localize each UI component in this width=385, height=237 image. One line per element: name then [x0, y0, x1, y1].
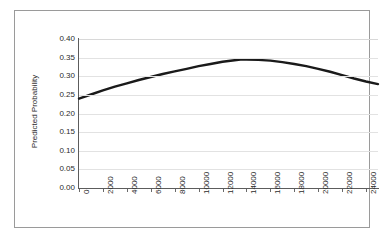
x-axis-tick-mark: [246, 189, 247, 192]
x-axis-tick-mark: [342, 189, 343, 192]
y-axis-tick-label: 0.30: [45, 72, 75, 80]
gridline-horizontal: [79, 58, 378, 59]
y-axis-tick-label: 0.35: [45, 54, 75, 62]
chart-frame: Predicted Probability 0.000.050.100.150.…: [14, 10, 370, 228]
series-line: [79, 59, 378, 98]
x-axis-tick-mark: [175, 189, 176, 192]
x-axis-tick-label: 10000: [203, 172, 211, 194]
x-axis-tick-mark: [294, 189, 295, 192]
x-axis-tick-label: 4000: [131, 176, 139, 194]
x-axis-tick-label: 14000: [250, 172, 258, 194]
gridline-horizontal: [79, 169, 378, 170]
gridline-horizontal: [79, 76, 378, 77]
gridline-horizontal: [79, 95, 378, 96]
x-axis-tick-mark: [270, 189, 271, 192]
x-axis-tick-mark: [127, 189, 128, 192]
x-axis-tick-mark: [79, 189, 80, 192]
x-axis-tick-label: 22000: [346, 172, 354, 194]
chart-figure: Predicted Probability 0.000.050.100.150.…: [0, 0, 385, 237]
y-axis-tick-label: 0.25: [45, 91, 75, 99]
gridline-horizontal: [79, 114, 378, 115]
y-axis-tick-label: 0.15: [45, 128, 75, 136]
y-axis-tick-label: 0.40: [45, 35, 75, 43]
y-axis-tick-label: 0.00: [45, 184, 75, 192]
plot-area: [79, 39, 378, 188]
gridline-horizontal: [79, 132, 378, 133]
x-axis-tick-mark: [223, 189, 224, 192]
x-axis-tick-label: 2000: [107, 176, 115, 194]
x-axis-tick-mark: [318, 189, 319, 192]
y-axis-tick-label: 0.10: [45, 147, 75, 155]
x-axis-tick-mark: [366, 189, 367, 192]
x-axis-tick-label: 6000: [155, 176, 163, 194]
y-axis-tick-labels: 0.000.050.100.150.200.250.300.350.40: [45, 35, 75, 193]
x-axis-tick-label: 18000: [298, 172, 306, 194]
x-axis-tick-label: 24000: [370, 172, 378, 194]
x-axis-tick-label: 8000: [179, 176, 187, 194]
y-axis-title: Predicted Probability: [30, 52, 39, 172]
x-axis-tick-label: 16000: [274, 172, 282, 194]
y-axis-tick-label: 0.20: [45, 110, 75, 118]
x-axis-tick-mark: [103, 189, 104, 192]
x-axis-tick-mark: [151, 189, 152, 192]
x-axis-tick-label: 20000: [322, 172, 330, 194]
x-axis-tick-label: 12000: [227, 172, 235, 194]
x-axis-tick-mark: [199, 189, 200, 192]
x-axis-tick-label: 0: [83, 190, 91, 194]
gridline-horizontal: [79, 39, 378, 40]
y-axis-tick-label: 0.05: [45, 165, 75, 173]
gridline-horizontal: [79, 151, 378, 152]
